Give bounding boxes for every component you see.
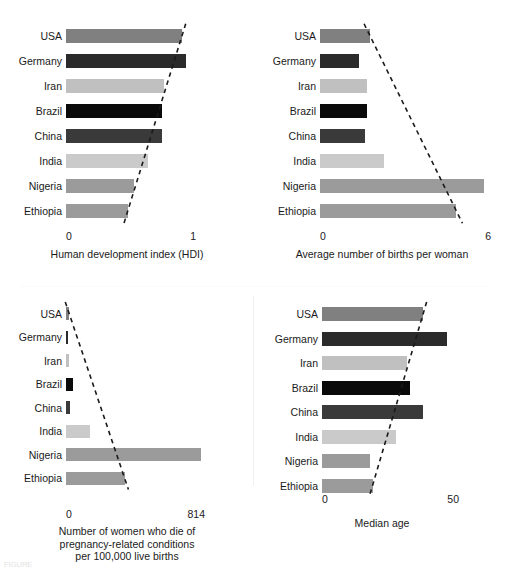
bar-india [322,430,396,444]
x-axis-title: Number of women who die ofpregnancy-rela… [10,525,244,563]
bar-germany [66,331,68,344]
bar-category-label-ethiopia: Ethiopia [254,206,316,217]
x-axis-tick-min: 0 [66,509,72,520]
x-axis-title: Average number of births per woman [260,248,504,261]
bar-category-label-nigeria: Nigeria [0,181,62,192]
bar-china [322,405,423,419]
bar-india [320,154,384,168]
bar-category-label-ethiopia: Ethiopia [0,206,62,217]
bar-nigeria [66,448,201,461]
bar-category-label-iran: Iran [0,356,62,367]
x-axis-title-line: Number of women who die of [10,525,244,538]
bar-usa [320,29,370,43]
x-axis-tick-max: 1 [190,231,196,242]
bar-category-label-nigeria: Nigeria [254,456,318,467]
panel-top-left: USAGermanyIranBrazilChinaIndiaNigeriaEth… [0,0,254,287]
bar-category-label-germany: Germany [254,334,318,345]
x-axis-tick-max: 50 [447,494,459,505]
bar-brazil [320,104,367,118]
panel-top-right: USAGermanyIranBrazilChinaIndiaNigeriaEth… [254,0,508,287]
bar-iran [322,356,407,370]
bar-germany [322,332,447,346]
bar-category-label-china: China [0,403,62,414]
bar-category-label-usa: USA [254,309,318,320]
x-axis-title: Human development index (HDI) [10,248,244,261]
bar-brazil [66,104,162,118]
trend-line [0,0,254,288]
bar-nigeria [322,454,370,468]
bar-ethiopia [66,204,128,218]
panel-divider-horizontal [20,286,490,287]
trend-line [254,0,508,288]
bar-india [66,154,148,168]
x-axis-tick-max: 6 [485,231,491,242]
panel-divider-vertical [253,296,254,486]
bar-ethiopia [322,479,373,493]
x-axis-tick-max: 814 [187,509,205,520]
bar-category-label-china: China [0,131,62,142]
bar-category-label-iran: Iran [254,358,318,369]
bar-category-label-brazil: Brazil [254,383,318,394]
x-axis-tick-min: 0 [320,231,326,242]
bar-iran [66,354,69,367]
bar-category-label-nigeria: Nigeria [0,450,62,461]
bar-category-label-china: China [254,131,316,142]
bar-germany [66,54,186,68]
bar-category-label-india: India [254,432,318,443]
bar-category-label-india: India [0,426,62,437]
panel-bottom-left: USAGermanyIranBrazilChinaIndiaNigeriaEth… [0,287,254,575]
bar-china [66,401,70,414]
bar-brazil [66,378,73,391]
bar-china [320,129,365,143]
panel-bottom-right: USAGermanyIranBrazilChinaIndiaNigeriaEth… [254,287,508,575]
bar-category-label-nigeria: Nigeria [254,181,316,192]
bar-china [66,129,162,143]
bar-category-label-brazil: Brazil [254,106,316,117]
bar-india [66,425,90,438]
bar-ethiopia [320,204,456,218]
bar-usa [66,29,182,43]
bar-iran [66,79,164,93]
x-axis-title-line: per 100,000 live births [10,550,244,563]
bar-brazil [322,381,410,395]
bar-category-label-usa: USA [254,31,316,42]
bar-nigeria [66,179,134,193]
bar-category-label-iran: Iran [254,81,316,92]
bar-category-label-brazil: Brazil [0,106,62,117]
bar-category-label-china: China [254,407,318,418]
bar-category-label-iran: Iran [0,81,62,92]
bar-usa [66,307,69,320]
bar-category-label-germany: Germany [254,56,316,67]
bar-category-label-india: India [0,156,62,167]
x-axis-title: Median age [260,517,504,530]
bar-category-label-usa: USA [0,309,62,320]
x-axis-tick-min: 0 [322,494,328,505]
bar-category-label-ethiopia: Ethiopia [0,473,62,484]
bar-category-label-germany: Germany [0,332,62,343]
bar-usa [322,307,423,321]
bar-category-label-germany: Germany [0,56,62,67]
x-axis-title-line: pregnancy-related conditions [10,538,244,551]
bar-category-label-brazil: Brazil [0,379,62,390]
bar-nigeria [320,179,484,193]
bar-ethiopia [66,472,125,485]
four-panel-bar-chart-figure: USAGermanyIranBrazilChinaIndiaNigeriaEth… [0,0,508,575]
bar-iran [320,79,367,93]
bar-category-label-india: India [254,156,316,167]
x-axis-tick-min: 0 [66,231,72,242]
bar-category-label-usa: USA [0,31,62,42]
bar-category-label-ethiopia: Ethiopia [254,481,318,492]
bar-germany [320,54,359,68]
cropped-caption-artifact: FIGURE [4,560,32,569]
